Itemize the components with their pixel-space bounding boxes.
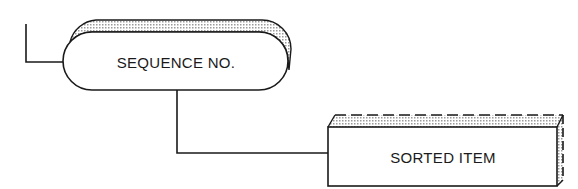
sequence-to-sorted-connector bbox=[177, 90, 328, 153]
sorted-item-label: SORTED ITEM bbox=[390, 149, 496, 166]
sequence-no-label: SEQUENCE NO. bbox=[117, 54, 236, 71]
sorted-item-top-face bbox=[328, 115, 563, 127]
incoming-connector bbox=[26, 24, 63, 62]
